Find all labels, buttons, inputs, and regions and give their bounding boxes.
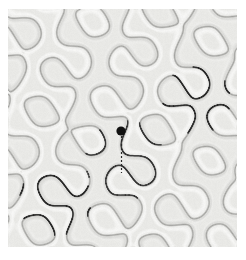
figure-root: Grayscale labyrinthine (maze-like) Turin… [0, 0, 246, 260]
labyrinthine-pattern-canvas [0, 0, 246, 260]
